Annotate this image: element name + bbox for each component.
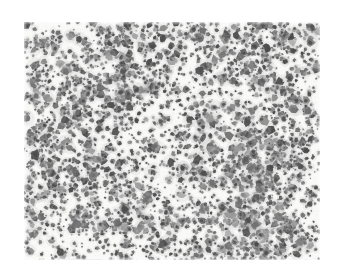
micrograph-image	[24, 22, 320, 260]
figure-root	[0, 0, 343, 278]
